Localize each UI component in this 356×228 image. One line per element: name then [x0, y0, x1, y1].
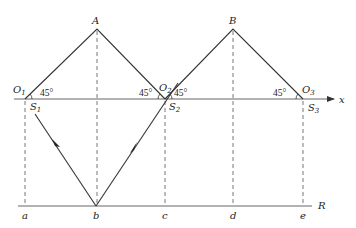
angle-arc-o3	[296, 94, 298, 99]
label-e: e	[300, 210, 306, 221]
label-a: a	[22, 210, 28, 221]
label-c: c	[162, 210, 168, 221]
label-O3: O3	[302, 84, 315, 97]
label-A: A	[91, 15, 99, 26]
label-S2: S2	[169, 101, 181, 114]
label-d: d	[230, 210, 236, 221]
label-S3: S3	[308, 102, 320, 115]
label-b: b	[93, 210, 99, 221]
angle-label-o3: 45°	[273, 88, 287, 98]
angle-arc-o1	[30, 94, 32, 99]
path-s1-b	[35, 114, 96, 206]
ground-label-r: R	[317, 200, 326, 211]
label-O1: O1	[13, 84, 26, 97]
x-axis-label: x	[339, 94, 345, 105]
angle-arc-o2-left	[158, 94, 160, 99]
label-S1: S1	[30, 101, 41, 114]
label-O2: O2	[159, 82, 172, 95]
angle-label-o1: 45°	[40, 88, 54, 98]
angle-label-o2-left: 45°	[139, 88, 153, 98]
reflection-diagram: x R 45° 45° 45° 45° A B O1 O2 O3 S1 S2 S…	[0, 0, 356, 228]
label-B: B	[228, 15, 236, 26]
arrow-up-icon	[130, 142, 137, 153]
path-b-o2	[96, 83, 178, 206]
angle-label-o2-right: 45°	[174, 88, 188, 98]
arrow-down-icon	[52, 139, 60, 147]
